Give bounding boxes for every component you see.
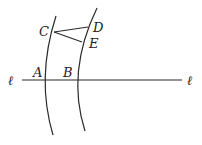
line-label-right: ℓ (187, 73, 193, 88)
point-label-d: D (92, 20, 104, 35)
geometry-diagram: ℓ ℓ A B C D E (0, 0, 202, 145)
segment-ce (54, 32, 82, 42)
point-label-a: A (32, 65, 42, 80)
point-label-c: C (39, 24, 49, 39)
segment-cd (54, 27, 88, 32)
point-label-b: B (62, 65, 73, 80)
line-label-left: ℓ (8, 73, 14, 88)
point-label-e: E (88, 36, 99, 51)
